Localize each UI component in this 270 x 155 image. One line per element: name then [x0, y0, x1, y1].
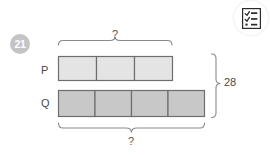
bar-q [59, 91, 205, 117]
bottom-brace-label: ? [128, 136, 134, 147]
bottom-brace [59, 123, 205, 133]
bar-model-diagram: P Q ? ? 28 [0, 0, 270, 155]
row-label-p: P [41, 65, 48, 76]
page-root: 21 [0, 0, 270, 155]
right-brace [212, 54, 221, 118]
top-brace-label: ? [112, 29, 118, 40]
row-label-q: Q [41, 98, 50, 109]
right-brace-label: 28 [224, 77, 236, 88]
bar-p [59, 57, 173, 81]
